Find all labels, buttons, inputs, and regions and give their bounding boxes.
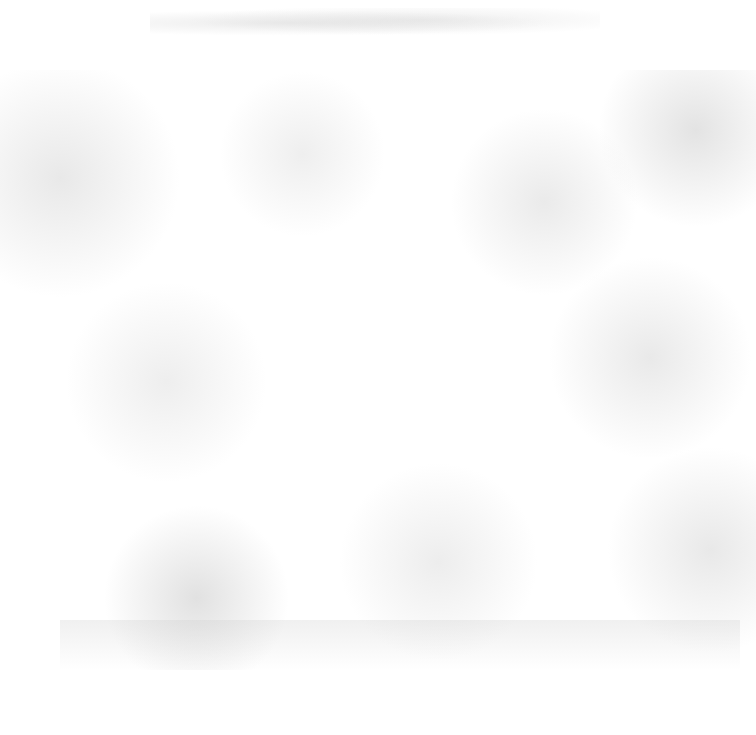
faint-header-line	[150, 8, 600, 38]
scanned-page	[0, 0, 756, 735]
scan-noise-band	[60, 620, 740, 670]
page-body-blank	[0, 70, 756, 670]
